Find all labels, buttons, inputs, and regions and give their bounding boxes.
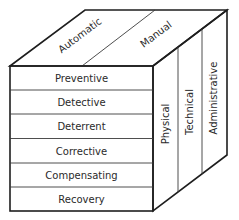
top-label-automatic: Automatic [56,15,104,55]
side-label-technical: Technical [184,89,195,136]
front-face: Preventive Detective Deterrent Correctiv… [10,66,153,211]
row-label-recovery: Recovery [58,194,104,205]
row-label-compensating: Compensating [45,170,117,181]
side-label-physical: Physical [160,104,171,145]
side-face: Physical Technical Administrative [153,10,227,211]
control-types-cube: Automatic Manual Physical Technical Admi… [0,0,239,220]
row-label-detective: Detective [57,97,105,108]
row-label-preventive: Preventive [55,73,108,84]
side-label-administrative: Administrative [208,62,219,135]
top-face: Automatic Manual [10,10,227,66]
row-label-deterrent: Deterrent [57,121,105,132]
top-label-manual: Manual [138,19,174,50]
row-label-corrective: Corrective [56,146,107,157]
